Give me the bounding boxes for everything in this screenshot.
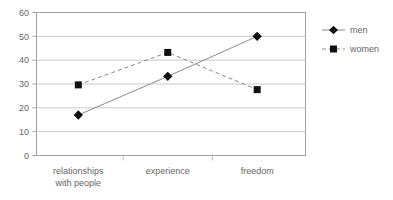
y-axis-label-60: 60: [19, 8, 29, 18]
y-axis-label-50: 50: [19, 32, 29, 42]
chart-canvas: 60 50 40 30 20 10 0 relationships with p…: [0, 0, 393, 200]
legend-label-men: men: [350, 25, 368, 35]
y-tick-marks: [33, 13, 37, 156]
chart-legend: men women: [322, 25, 379, 54]
data-point-women-experience: [164, 49, 171, 56]
legend-item-women[interactable]: women: [322, 44, 379, 54]
x-axis-label-relationships-line2: with people: [55, 178, 102, 188]
y-axis-label-0: 0: [24, 151, 29, 161]
x-tick-marks: [123, 156, 212, 161]
y-axis-label-40: 40: [19, 55, 29, 65]
y-axis-label-10: 10: [19, 127, 29, 137]
y-axis-labels: 60 50 40 30 20 10 0: [19, 8, 29, 161]
y-axis-label-30: 30: [19, 79, 29, 89]
x-axis-label-experience: experience: [146, 166, 190, 176]
x-axis-label-freedom: freedom: [241, 166, 274, 176]
y-axis-label-20: 20: [19, 103, 29, 113]
data-point-women-relationships: [75, 81, 82, 88]
x-axis-labels: relationships with people experience fre…: [53, 166, 274, 188]
legend-marker-diamond-icon: [329, 26, 338, 34]
line-chart: 60 50 40 30 20 10 0 relationships with p…: [0, 0, 393, 200]
data-point-women-freedom: [254, 86, 261, 93]
legend-label-women: women: [349, 44, 379, 54]
legend-item-men[interactable]: men: [322, 25, 368, 35]
x-axis-label-relationships-line1: relationships: [53, 166, 104, 176]
legend-marker-square-icon: [330, 46, 337, 53]
